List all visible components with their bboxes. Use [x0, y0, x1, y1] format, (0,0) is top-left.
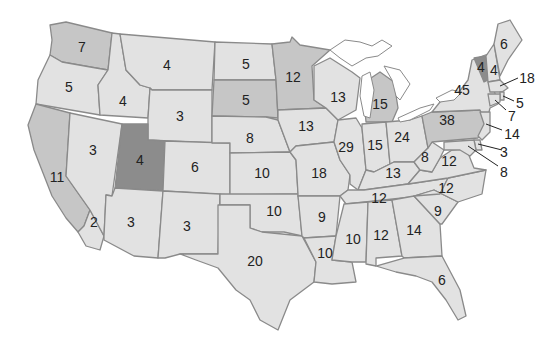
label-nd: 5 — [242, 56, 250, 72]
label-wy: 3 — [176, 108, 184, 124]
label-il: 29 — [338, 139, 354, 155]
state-ma[interactable] — [488, 80, 508, 92]
label-ms: 10 — [345, 231, 361, 247]
label-mn: 12 — [285, 69, 301, 85]
label-az: 3 — [127, 214, 135, 230]
label-vt: 4 — [477, 59, 485, 75]
state-me[interactable] — [494, 20, 522, 76]
label-va: 12 — [441, 153, 457, 169]
label-ct: 7 — [508, 108, 516, 124]
label-ma: 18 — [519, 70, 535, 86]
label-id: 4 — [119, 93, 127, 109]
label-ne: 8 — [246, 130, 254, 146]
label-nh: 4 — [490, 62, 498, 78]
label-ca-north: 11 — [50, 169, 65, 185]
label-sd: 5 — [242, 92, 250, 108]
label-tn: 12 — [371, 190, 387, 206]
label-fl: 6 — [438, 272, 446, 288]
label-wi: 13 — [330, 89, 346, 105]
label-mo: 18 — [311, 165, 327, 181]
label-nc: 12 — [438, 180, 454, 196]
label-ia: 13 — [298, 118, 314, 134]
label-mi: 15 — [372, 96, 388, 112]
label-ut: 4 — [136, 152, 144, 168]
label-ar: 9 — [318, 209, 326, 225]
us-map: 7 5 11 2 3 4 4 3 4 3 6 3 5 5 8 10 10 20 … — [0, 0, 545, 345]
label-la: 10 — [317, 245, 333, 261]
label-al: 12 — [373, 227, 389, 243]
label-wa: 7 — [78, 39, 86, 55]
label-wv: 8 — [421, 149, 429, 165]
state-fl[interactable] — [376, 256, 466, 320]
label-md: 8 — [500, 164, 508, 180]
label-de: 3 — [500, 144, 508, 160]
label-ri: 5 — [516, 95, 524, 111]
label-ks: 10 — [254, 165, 270, 181]
label-oh: 24 — [394, 129, 410, 145]
label-co: 6 — [191, 159, 199, 175]
label-sc: 9 — [434, 203, 442, 219]
label-in: 15 — [367, 137, 383, 153]
lake-superior — [330, 40, 392, 66]
label-ny: 45 — [454, 82, 470, 98]
label-ga: 14 — [406, 222, 422, 238]
label-ky: 13 — [385, 165, 401, 181]
label-me: 6 — [500, 36, 508, 52]
label-nj: 14 — [504, 126, 520, 142]
label-mt: 4 — [163, 57, 171, 73]
label-nm: 3 — [183, 218, 191, 234]
label-ca-south: 2 — [90, 214, 98, 230]
label-nv: 3 — [89, 142, 97, 158]
label-pa: 38 — [439, 112, 455, 128]
label-tx: 20 — [247, 253, 263, 269]
label-or: 5 — [65, 79, 73, 95]
label-ok: 10 — [266, 203, 282, 219]
